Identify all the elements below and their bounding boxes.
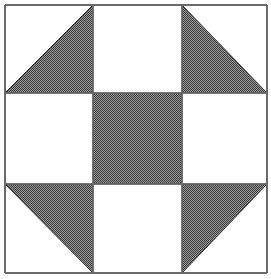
corner-triangle-top-right: [5, 184, 93, 273]
corner-triangle-top-left: [182, 184, 267, 273]
center-square: [93, 93, 182, 184]
quilt-block-diagram: [0, 0, 271, 279]
shaded-shapes: [5, 5, 267, 273]
corner-triangle-bottom-right: [5, 5, 93, 93]
corner-triangle-bottom-left: [182, 5, 267, 93]
